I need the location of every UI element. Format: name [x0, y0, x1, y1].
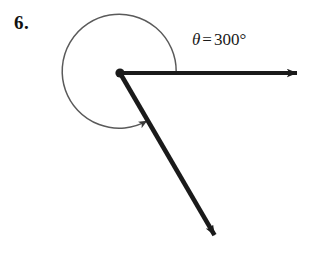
angle-diagram-canvas: [0, 0, 323, 276]
angle-diagram-figure: 6. θ=300°: [0, 0, 323, 276]
equals-symbol: =: [200, 30, 214, 49]
terminal-side-ray: [120, 73, 215, 235]
angle-value: 300°: [214, 30, 246, 49]
vertex-point: [115, 68, 124, 77]
angle-measure-label: θ=300°: [192, 31, 246, 48]
